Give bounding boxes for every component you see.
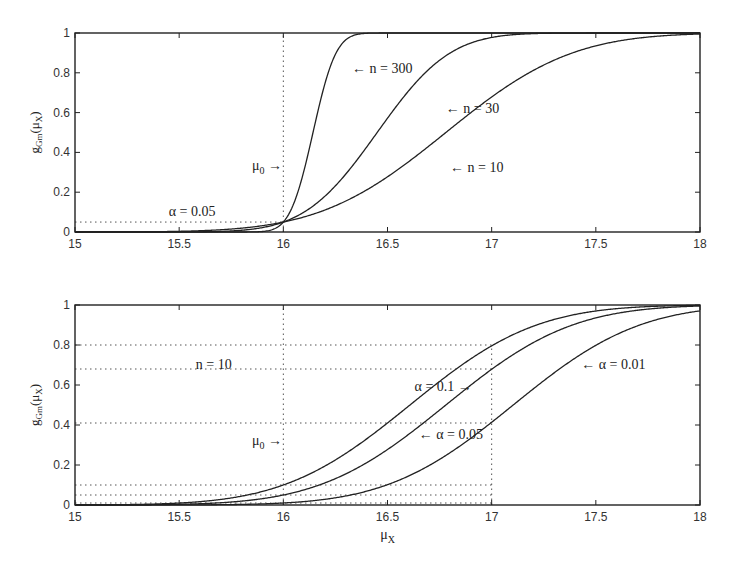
annotation: ← n = 300 [352,61,412,76]
x-tick-label: 16 [277,510,291,524]
y-axis-label: gGm(μX) [27,111,44,153]
annotation: ← α = 0.05 [419,427,483,442]
annotation: μ0 → [252,433,282,451]
x-tick-label: 15 [68,510,82,524]
y-tick-label: 0.8 [53,66,70,80]
figure: 1515.51616.51717.51800.20.40.60.81← n = … [0,0,744,575]
curve--0-05 [75,306,700,505]
y-tick-label: 0.2 [53,458,70,472]
x-tick-label: 15.5 [167,510,191,524]
annotation: α = 0.05 [169,204,216,219]
x-tick-label: 17.5 [584,510,608,524]
y-tick-label: 0.6 [53,106,70,120]
y-axis-label: gGm(μX) [27,384,44,426]
annotation: ← α = 0.01 [581,357,645,372]
x-tick-label: 16 [277,237,291,251]
x-tick-label: 18 [693,237,707,251]
x-tick-label: 17 [485,237,499,251]
y-tick-label: 1 [63,26,70,40]
x-tick-label: 17 [485,510,499,524]
y-tick-label: 1 [63,298,70,312]
y-tick-label: 0 [63,225,70,239]
y-tick-label: 0.4 [53,145,70,159]
annotation: α = 0.1 → [415,379,472,394]
y-tick-label: 0.6 [53,378,70,392]
x-tick-label: 18 [693,510,707,524]
x-tick-label: 17.5 [584,237,608,251]
x-tick-label: 16.5 [376,510,400,524]
annotation: ← n = 10 [450,160,503,175]
x-tick-label: 15 [68,237,82,251]
y-tick-label: 0.2 [53,185,70,199]
annotation: μ0 → [252,158,282,176]
curve--0-01 [75,311,700,505]
x-tick-label: 16.5 [376,237,400,251]
y-tick-label: 0.4 [53,418,70,432]
bottom-plot-alpha-comparison: 1515.51616.51717.51800.20.40.60.81n = 10… [27,298,707,545]
x-axis-label: μX [380,527,396,545]
y-tick-label: 0 [63,498,70,512]
x-tick-label: 15.5 [167,237,191,251]
y-tick-label: 0.8 [53,338,70,352]
top-plot-n-comparison: 1515.51616.51717.51800.20.40.60.81← n = … [27,26,707,251]
annotation: n = 10 [196,357,232,372]
curve--0-1 [75,305,700,505]
annotation: ← n = 30 [446,101,499,116]
axes-frame [75,305,700,505]
